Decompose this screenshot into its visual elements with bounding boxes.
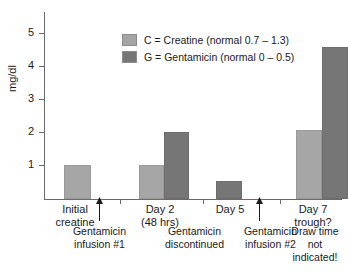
y-axis-label: mg/dl <box>6 65 18 92</box>
legend-swatch-creatine <box>122 34 137 46</box>
y-tick-label-2: 2 <box>28 124 34 139</box>
legend: C = Creatine (normal 0.7 – 1.3) G = Gent… <box>122 32 294 66</box>
x-tick-3 <box>280 199 281 204</box>
y-tick-1: 1 <box>39 165 45 166</box>
y-tick-label-4: 4 <box>28 58 34 73</box>
plot-area: 1 2 3 4 5 C = Creatine (normal 0.7 – <box>44 12 342 200</box>
infusion-1-arrow-icon <box>95 197 104 221</box>
bar-day7-G <box>322 47 348 199</box>
x-category-label-day-5: Day 5 <box>200 203 260 216</box>
note-gentamicin-infusion-1: Gentamicin infusion #1 <box>57 225 142 251</box>
bar-initial-creatine-C <box>64 165 91 199</box>
y-tick-label-3: 3 <box>28 91 34 106</box>
y-tick-5: 5 <box>39 33 45 34</box>
y-tick-3: 3 <box>39 99 45 100</box>
infusion-2-arrow-icon <box>255 197 264 221</box>
x-tick-1 <box>120 199 121 204</box>
y-tick-4: 4 <box>39 66 45 67</box>
legend-item-gentamicin: G = Gentamicin (normal 0 – 0.5) <box>122 49 294 64</box>
x-axis-line <box>44 199 342 200</box>
y-axis-line <box>44 12 45 200</box>
note-gentamicin-discontinued: Gentamicin discontinued <box>152 225 237 251</box>
bar-day7-C <box>296 130 322 199</box>
note-draw-time-not-indicated: Draw time not indicated! <box>284 225 346 264</box>
y-tick-2: 2 <box>39 132 45 133</box>
bar-day2-C <box>139 165 164 199</box>
bar-day5-G <box>216 181 242 199</box>
y-tick-label-1: 1 <box>28 157 34 172</box>
chart-figure: mg/dl 1 2 3 4 5 <box>0 0 348 274</box>
legend-label-gentamicin: G = Gentamicin (normal 0 – 0.5) <box>144 51 294 63</box>
bar-day2-G <box>164 132 189 199</box>
legend-label-creatine: C = Creatine (normal 0.7 – 1.3) <box>144 34 289 46</box>
legend-swatch-gentamicin <box>122 51 137 63</box>
y-tick-label-5: 5 <box>28 25 34 40</box>
legend-item-creatine: C = Creatine (normal 0.7 – 1.3) <box>122 32 294 47</box>
